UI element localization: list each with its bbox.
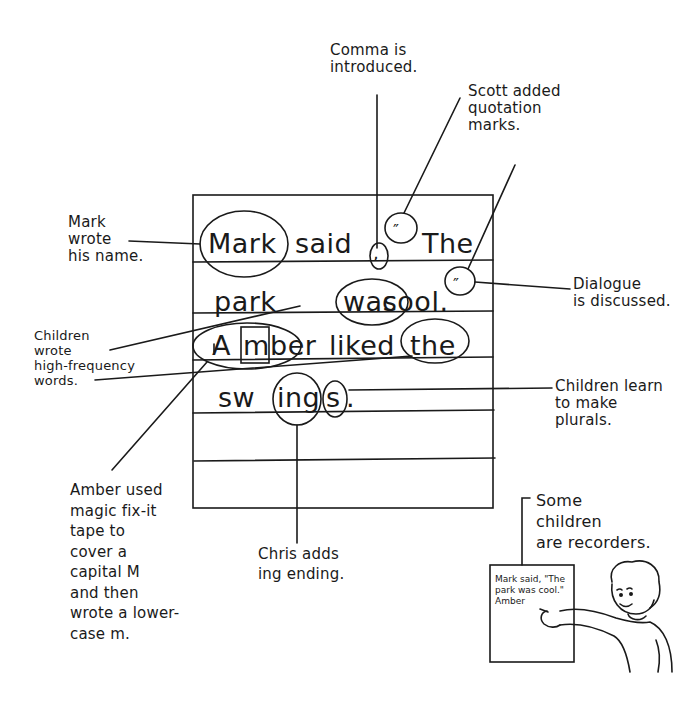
chart-letter-m: m — [243, 331, 270, 361]
annotation-dialogue: Dialogue is discussed. — [573, 276, 671, 310]
chart-word-sw: sw — [218, 383, 255, 413]
chart-letter-a: A — [212, 331, 231, 361]
chart-word-mark: Mark — [208, 229, 277, 259]
annotation-plurals: Children learn to make plurals. — [555, 378, 663, 429]
annotation-comma: Comma is introduced. — [330, 42, 418, 76]
annotation-amber: Amber used magic fix-it tape to cover a … — [70, 480, 179, 644]
circle-open-quote — [385, 213, 417, 243]
leader-quotes-2 — [468, 165, 515, 269]
annotation-chris: Chris adds ing ending. — [258, 544, 344, 584]
circle-close-quote — [445, 267, 475, 295]
annotation-mark: Mark wrote his name. — [68, 214, 143, 265]
ruled-line — [193, 260, 493, 262]
chart-period: . — [346, 383, 355, 413]
chart-word-liked: liked — [329, 331, 395, 361]
chart-word-cool: cool. — [382, 287, 448, 317]
leader-recorders — [522, 498, 530, 565]
annotation-hf-words: Children wrote high-frequency words. — [34, 328, 135, 388]
chart-word-park: park — [214, 287, 276, 317]
chart-word-said: said — [295, 229, 352, 259]
leader-plurals — [349, 388, 552, 390]
chart-word-the: The — [422, 229, 474, 259]
leader-dialogue — [475, 282, 570, 289]
annotation-quotes: Scott added quotation marks. — [468, 83, 561, 134]
chart-word-ing: ing — [277, 383, 320, 413]
chart-word-ber: ber — [270, 331, 316, 361]
chart-comma: , — [373, 238, 379, 268]
ruled-line — [194, 458, 495, 461]
annotation-recorders: Some children are recorders. — [536, 490, 651, 553]
chart-close-quote: ″ — [453, 270, 459, 300]
chart-letter-s: s — [326, 383, 341, 413]
recorder-paper-text: Mark said, "The park was cool." Amber — [495, 574, 565, 607]
chart-word-the-2: the — [410, 331, 456, 361]
chart-open-quote: ″ — [393, 216, 399, 246]
